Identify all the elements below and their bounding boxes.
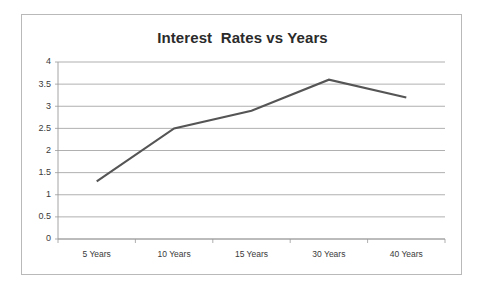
chart-plot-frame: Interest Rates vs Years 00.511.522.533.5… <box>21 14 462 275</box>
y-axis-tick-label: 3 <box>46 101 51 111</box>
x-axis-tick-labels: 5 Years10 Years15 Years30 Years40 Years <box>83 249 423 259</box>
x-axis-tick-label: 30 Years <box>312 249 345 259</box>
y-axis-tick-label: 2.5 <box>38 123 51 133</box>
y-axis-tick-label: 0.5 <box>38 211 51 221</box>
y-axis-tick-label: 0 <box>46 233 51 243</box>
chart-figure: Interest Rates vs Years 00.511.522.533.5… <box>0 0 488 292</box>
chart-plot-area: 00.511.522.533.54 5 Years10 Years15 Year… <box>22 15 463 276</box>
x-axis-tick-label: 5 Years <box>83 249 111 259</box>
data-series-group <box>97 80 407 182</box>
y-axis-tick-label: 4 <box>46 56 51 66</box>
y-axis-tick-label: 3.5 <box>38 79 51 89</box>
x-axis-tick-label: 15 Years <box>235 249 268 259</box>
gridlines-group <box>58 62 445 239</box>
y-axis-tick-label: 1 <box>46 189 51 199</box>
x-axis-tick-label: 40 Years <box>390 249 423 259</box>
y-axis-tick-labels: 00.511.522.533.54 <box>38 56 51 243</box>
y-axis-tick-label: 2 <box>46 145 51 155</box>
y-axis-tick-label: 1.5 <box>38 167 51 177</box>
x-tick-marks-group <box>58 239 445 243</box>
x-axis-tick-label: 10 Years <box>158 249 191 259</box>
data-series-line <box>97 80 407 182</box>
